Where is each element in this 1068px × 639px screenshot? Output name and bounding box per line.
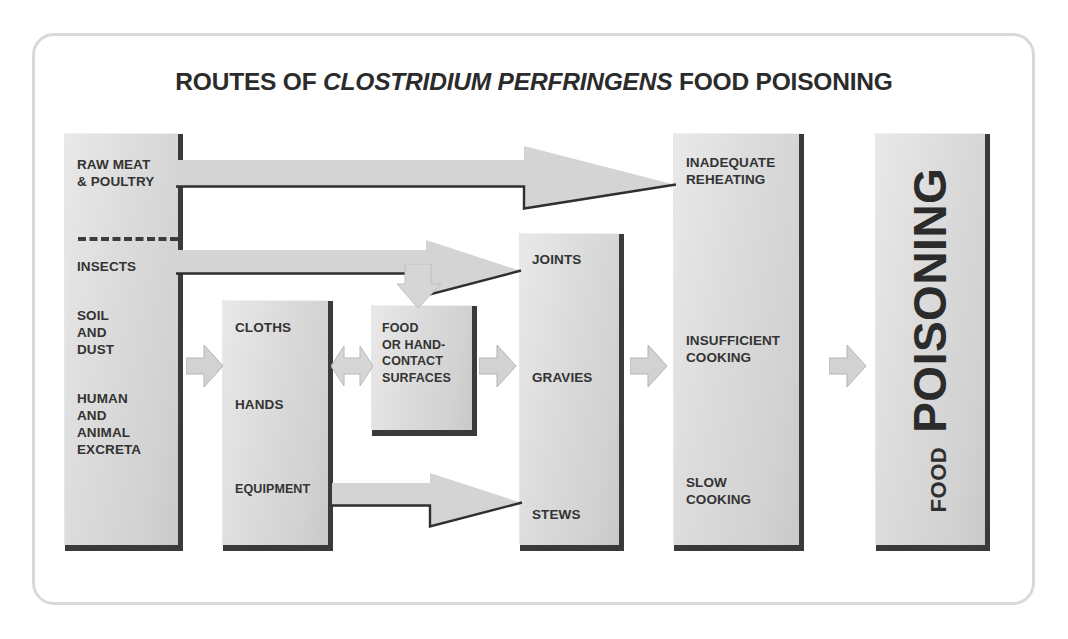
sources-item-insects: INSECTS [77, 258, 170, 275]
food-poisoning-word-food: FOOD [927, 446, 953, 512]
item-slow-cooking: SLOW COOKING [686, 474, 791, 508]
title-prefix: ROUTES OF [175, 68, 323, 95]
food-or-hand-contact-surfaces-box: FOOD OR HAND- CONTACT SURFACES [371, 305, 472, 430]
item-equipment: EQUIPMENT [235, 481, 320, 498]
sources-to-cloths-arrow [186, 342, 224, 390]
food-poisoning-word-poisoning: POISONING [904, 167, 958, 432]
raw-meat-to-inadequate-reheating-arrow [176, 146, 676, 216]
sources-box: RAW MEAT & POULTRY INSECTS SOIL AND DUST… [64, 133, 178, 545]
insects-to-joints-arrow [176, 240, 521, 298]
item-food-or-hand-contact-surfaces: FOOD OR HAND- CONTACT SURFACES [382, 320, 464, 386]
cooking-to-poisoning-arrow [829, 342, 867, 390]
item-insufficient-cooking: INSUFFICIENT COOKING [686, 332, 791, 366]
food-poisoning-text-wrap: FOOD POISONING [876, 134, 985, 545]
foods-to-cooking-arrow [630, 342, 668, 390]
item-cloths: CLOTHS [235, 319, 320, 336]
food-poisoning-box: FOOD POISONING [875, 133, 985, 545]
sources-item-soil-dust: SOIL AND DUST [77, 307, 170, 358]
sources-item-excreta: HUMAN AND ANIMAL EXCRETA [77, 390, 170, 458]
item-stews: STEWS [532, 506, 611, 523]
item-inadequate-reheating: INADEQUATE REHEATING [686, 154, 791, 188]
food-poisoning-rotated-text: FOOD POISONING [904, 167, 958, 512]
item-hands: HANDS [235, 396, 320, 413]
title-italic-species: CLOSTRIDIUM PERFRINGENS [323, 68, 672, 95]
title-suffix: FOOD POISONING [672, 68, 892, 95]
diagram-title: ROUTES OF CLOSTRIDIUM PERFRINGENS FOOD P… [0, 68, 1068, 96]
cloths-to-surfaces-bidirectional-arrow [331, 341, 373, 391]
foods-box: JOINTS GRAVIES STEWS [519, 233, 619, 545]
item-gravies: GRAVIES [532, 369, 611, 386]
sources-dashed-divider [78, 237, 178, 241]
item-joints: JOINTS [532, 251, 611, 268]
branch-down-to-surfaces-arrow [397, 264, 447, 309]
cooking-faults-box: INADEQUATE REHEATING INSUFFICIENT COOKIN… [673, 133, 799, 545]
diagram-canvas: ROUTES OF CLOSTRIDIUM PERFRINGENS FOOD P… [0, 0, 1068, 639]
equipment-to-stews-arrow [332, 473, 522, 529]
surfaces-to-foods-arrow [479, 342, 517, 390]
cloths-hands-equipment-box: CLOTHS HANDS EQUIPMENT [222, 300, 328, 545]
sources-item-raw-meat: RAW MEAT & POULTRY [77, 156, 170, 190]
